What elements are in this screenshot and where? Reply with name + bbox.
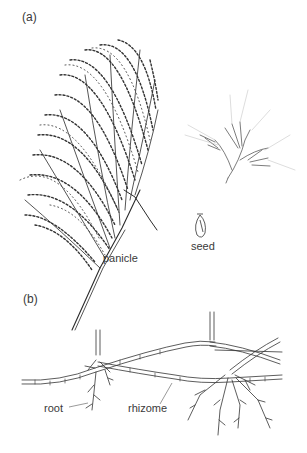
leader-lines <box>0 0 307 453</box>
